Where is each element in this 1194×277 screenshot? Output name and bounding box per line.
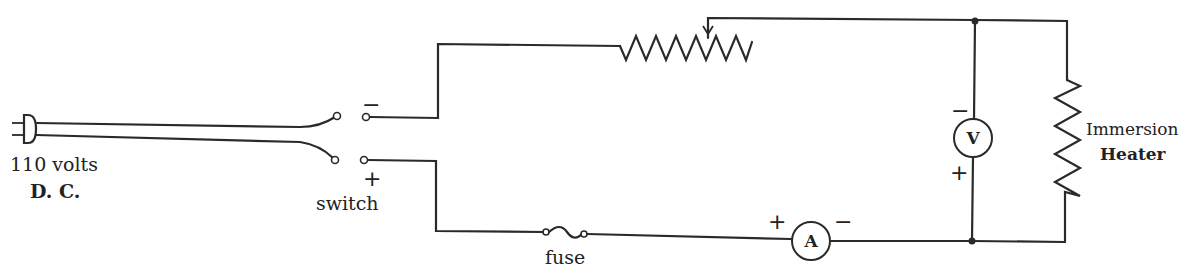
switch-terminal-right-bottom [361, 157, 368, 164]
heater-label-line2: Heater [1100, 144, 1167, 164]
heater-resistor-icon [1055, 80, 1080, 242]
source-type-label: D. C. [30, 180, 80, 202]
wire-fuse-to-ammeter [587, 234, 791, 239]
voltmeter-minus-sign: − [951, 98, 969, 123]
ammeter-plus-sign: + [768, 209, 786, 234]
power-cord [36, 117, 335, 158]
rheostat-icon [620, 36, 752, 60]
ammeter-letter: A [803, 231, 818, 251]
ammeter-minus-sign: − [834, 209, 852, 234]
switch-plus-sign: + [363, 166, 381, 191]
source-voltage-label: 110 volts [10, 153, 98, 175]
switch-terminal-left-bottom [332, 157, 339, 164]
switch-terminal-left-top [334, 113, 341, 120]
wire-top-left [370, 44, 620, 118]
wire-ammeter-to-heater [830, 241, 1065, 242]
heater-label-line1: Immersion [1086, 119, 1179, 139]
wire-top-right [975, 20, 1067, 80]
switch-minus-sign: − [362, 92, 380, 117]
fuse-label: fuse [545, 246, 585, 268]
switch[interactable] [332, 113, 370, 164]
rheostat-wiper [708, 18, 975, 38]
circuit-diagram: − + switch V − + Immersion Heater fuse A… [0, 0, 1194, 277]
voltmeter-lead-bottom [972, 157, 973, 241]
fuse-icon [543, 227, 587, 238]
voltmeter-lead-top [974, 21, 975, 119]
voltmeter-letter: V [965, 128, 980, 148]
plug-icon [12, 115, 36, 143]
wire-bottom-left [368, 160, 544, 232]
switch-label: switch [316, 192, 379, 214]
voltmeter-plus-sign: + [950, 160, 968, 185]
